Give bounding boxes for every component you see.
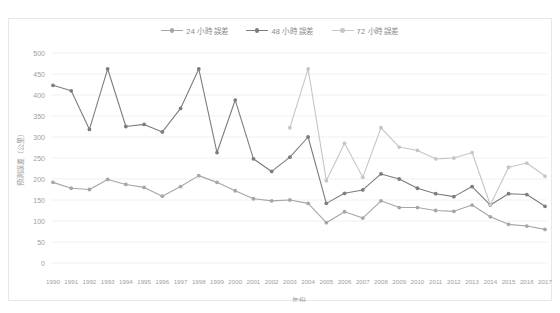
data-point[interactable] (379, 126, 383, 130)
data-point[interactable] (452, 156, 456, 160)
y-axis-tick-labels: 500450400350300250200150100500 (33, 50, 45, 267)
data-point[interactable] (215, 180, 219, 184)
data-point[interactable] (379, 172, 383, 176)
data-point[interactable] (288, 126, 292, 130)
chart-plot-area: 500450400350300250200150100500 199019911… (9, 19, 553, 302)
data-point[interactable] (525, 224, 529, 228)
data-point[interactable] (543, 228, 547, 232)
data-point[interactable] (488, 203, 492, 207)
data-point[interactable] (525, 193, 529, 197)
data-point[interactable] (488, 215, 492, 219)
data-point[interactable] (343, 210, 347, 214)
data-point[interactable] (106, 67, 110, 71)
axis-titles-group: 預測誤差（公里）年份 (16, 130, 306, 302)
y-axis-title: 預測誤差（公里） (16, 130, 25, 186)
data-point[interactable] (416, 149, 420, 153)
data-point[interactable] (543, 174, 547, 178)
data-point[interactable] (361, 175, 365, 179)
chart-container: 24 小時 誤差 48 小時 誤差 72 小時 誤差 5004504003503… (8, 18, 552, 301)
data-point[interactable] (343, 191, 347, 195)
data-point[interactable] (215, 151, 219, 155)
x-tick-label: 1994 (119, 278, 133, 285)
data-point[interactable] (233, 189, 237, 193)
data-point[interactable] (197, 67, 201, 71)
data-point[interactable] (507, 192, 511, 196)
x-tick-label: 2004 (301, 278, 315, 285)
data-point[interactable] (124, 183, 128, 187)
data-point[interactable] (397, 206, 401, 210)
data-point[interactable] (434, 192, 438, 196)
x-tick-label: 2013 (465, 278, 479, 285)
data-point[interactable] (51, 180, 55, 184)
data-point[interactable] (507, 165, 511, 169)
data-point[interactable] (160, 194, 164, 198)
x-tick-label: 1991 (64, 278, 78, 285)
x-axis-tick-labels: 1990199119921993199419951996199719981999… (46, 278, 552, 285)
x-tick-label: 2010 (411, 278, 425, 285)
data-point[interactable] (88, 188, 92, 192)
data-point[interactable] (124, 125, 128, 129)
data-point[interactable] (507, 222, 511, 226)
x-tick-label: 2015 (502, 278, 516, 285)
data-point[interactable] (270, 199, 274, 203)
data-point[interactable] (142, 186, 146, 190)
data-point[interactable] (179, 185, 183, 189)
data-point[interactable] (106, 178, 110, 182)
x-tick-label: 1993 (101, 278, 115, 285)
data-point[interactable] (470, 151, 474, 155)
x-tick-label: 2007 (356, 278, 370, 285)
data-point[interactable] (324, 221, 328, 225)
data-point[interactable] (361, 216, 365, 220)
data-point[interactable] (434, 157, 438, 161)
data-point[interactable] (397, 177, 401, 181)
data-point[interactable] (361, 188, 365, 192)
data-point[interactable] (51, 83, 55, 87)
data-point[interactable] (88, 128, 92, 132)
x-tick-label: 1999 (210, 278, 224, 285)
x-tick-label: 1996 (155, 278, 169, 285)
data-point[interactable] (416, 206, 420, 210)
data-point[interactable] (306, 135, 310, 139)
data-point[interactable] (452, 209, 456, 213)
data-point[interactable] (525, 161, 529, 165)
data-point[interactable] (324, 201, 328, 205)
data-point[interactable] (179, 107, 183, 111)
data-point[interactable] (69, 186, 73, 190)
x-tick-label: 2008 (374, 278, 388, 285)
data-point[interactable] (543, 204, 547, 208)
data-point[interactable] (324, 179, 328, 183)
x-tick-label: 2014 (483, 278, 497, 285)
data-point[interactable] (252, 197, 256, 201)
x-tick-label: 1995 (137, 278, 151, 285)
x-tick-label: 1990 (46, 278, 60, 285)
y-tick-label: 300 (33, 134, 45, 141)
data-point[interactable] (69, 89, 73, 93)
x-tick-label: 2006 (338, 278, 352, 285)
data-point[interactable] (470, 203, 474, 207)
data-point[interactable] (434, 209, 438, 213)
data-point[interactable] (306, 201, 310, 205)
data-point[interactable] (160, 130, 164, 134)
data-point[interactable] (397, 145, 401, 149)
data-point[interactable] (197, 174, 201, 178)
x-axis-title: 年份 (292, 296, 306, 302)
y-tick-label: 50 (37, 239, 45, 246)
data-point[interactable] (233, 98, 237, 102)
data-point[interactable] (306, 67, 310, 71)
x-tick-label: 2005 (319, 278, 333, 285)
data-point[interactable] (252, 157, 256, 161)
x-tick-label: 2016 (520, 278, 534, 285)
x-tick-label: 1997 (174, 278, 188, 285)
data-point[interactable] (288, 198, 292, 202)
data-point[interactable] (343, 141, 347, 145)
x-tick-label: 2012 (447, 278, 461, 285)
data-point[interactable] (452, 195, 456, 199)
data-point[interactable] (270, 170, 274, 174)
data-point[interactable] (288, 155, 292, 159)
data-point[interactable] (379, 199, 383, 203)
data-point[interactable] (142, 123, 146, 127)
data-point[interactable] (470, 185, 474, 189)
data-point[interactable] (416, 186, 420, 190)
x-tick-label: 2003 (283, 278, 297, 285)
series-s48 (51, 67, 547, 208)
